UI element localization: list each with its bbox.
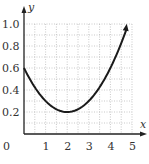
x-tick-label: 1: [43, 140, 50, 153]
parabola-chart: 0123450.20.40.60.81.0 x y: [0, 0, 149, 164]
y-tick-label: 0.8: [2, 40, 20, 53]
y-tick-label: 0.2: [2, 106, 20, 119]
x-axis-arrow-icon: [140, 132, 147, 137]
y-axis-label: y: [27, 1, 35, 14]
x-axis-label: x: [140, 118, 147, 131]
tick-labels: 0123450.20.40.60.81.0: [2, 18, 136, 153]
grid-lines: [24, 24, 132, 134]
y-tick-label: 1.0: [2, 18, 20, 31]
x-tick-label: 5: [129, 140, 136, 153]
curve-arrow-icon: [123, 24, 129, 31]
data-curve: [24, 29, 127, 112]
y-tick-label: 0.6: [2, 62, 20, 75]
x-tick-label: 2: [64, 140, 71, 153]
axes: [22, 6, 148, 137]
x-tick-label: 4: [107, 140, 114, 153]
y-axis-arrow-icon: [22, 6, 27, 13]
x-tick-label: 3: [86, 140, 93, 153]
x-tick-label: 0: [3, 140, 10, 153]
y-tick-label: 0.4: [2, 84, 20, 97]
